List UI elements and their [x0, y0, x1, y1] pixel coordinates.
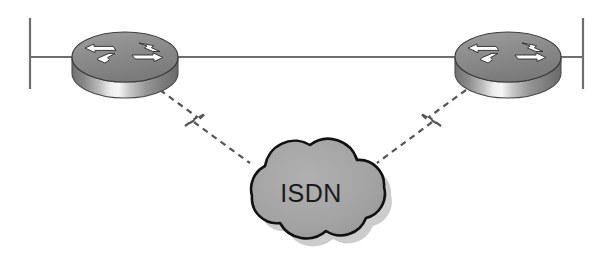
cisco-router-icon	[455, 32, 561, 98]
router-left	[72, 32, 178, 98]
isdn-link-right	[377, 90, 466, 163]
isdn-link-left	[160, 90, 250, 163]
router-right	[455, 32, 561, 98]
diagram-svg: ISDN	[0, 0, 613, 258]
cloud-label: ISDN	[280, 179, 342, 207]
network-diagram: ISDN	[0, 0, 613, 258]
cisco-router-icon	[72, 32, 178, 98]
